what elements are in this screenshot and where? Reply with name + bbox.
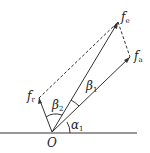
dashed-fe-fa bbox=[118, 22, 130, 57]
label-beta2: β2 bbox=[52, 99, 63, 113]
arrowhead-fe bbox=[113, 22, 118, 29]
dashed-fr-fe bbox=[39, 22, 118, 98]
label-fr: fr bbox=[27, 90, 35, 104]
label-beta1: β1 bbox=[86, 80, 97, 94]
label-fa: fa bbox=[134, 50, 143, 64]
label-origin: O bbox=[47, 137, 57, 149]
arc-beta2 bbox=[46, 114, 62, 117]
arrowhead-fr bbox=[38, 98, 42, 104]
label-alpha1: α1 bbox=[71, 119, 84, 133]
vector-fe bbox=[52, 22, 118, 132]
vector-fa bbox=[52, 57, 130, 132]
label-fe: fe bbox=[121, 11, 130, 25]
arc-beta1 bbox=[71, 100, 79, 106]
arc-alpha1 bbox=[67, 122, 70, 133]
